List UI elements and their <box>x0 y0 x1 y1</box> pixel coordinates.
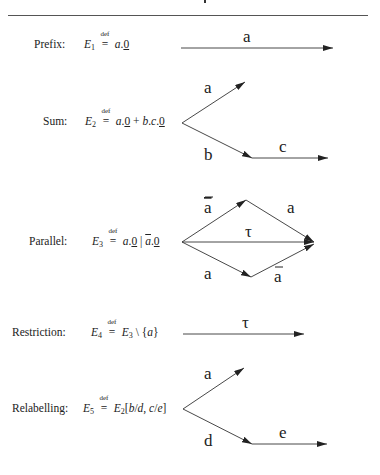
sum-edge-label-c: c <box>279 137 287 156</box>
sum-arrow-a <box>182 82 245 123</box>
relabelling-arrow-a <box>183 368 244 409</box>
parallel-edge-label-a-right: a <box>287 198 295 217</box>
relabelling-edge-label-a: a <box>204 364 212 383</box>
relabelling-arrow-d <box>183 409 252 444</box>
parallel-arrow-a-right <box>246 200 314 242</box>
parallel-edge-label-abar-top: a <box>204 198 212 217</box>
restriction-edge-label-tau: τ <box>242 313 249 332</box>
parallel-arrow-a-bottom <box>182 242 251 277</box>
parallel-edge-label-abar-bottom: a <box>274 267 282 286</box>
prefix-edge-label: a <box>243 27 251 46</box>
transition-diagrams: a a b c a a τ a a τ a d e <box>0 0 380 475</box>
sum-edge-label-a: a <box>204 78 212 97</box>
relabelling-edge-label-d: d <box>204 431 213 450</box>
sum-arrow-b <box>182 123 252 158</box>
parallel-arrow-abar-top <box>182 200 246 242</box>
sum-edge-label-b: b <box>204 145 213 164</box>
parallel-edge-label-a-bottom: a <box>204 264 212 283</box>
parallel-arrow-abar-bottom <box>251 244 314 277</box>
parallel-edge-label-tau: τ <box>245 222 252 241</box>
relabelling-edge-label-e: e <box>279 423 287 442</box>
